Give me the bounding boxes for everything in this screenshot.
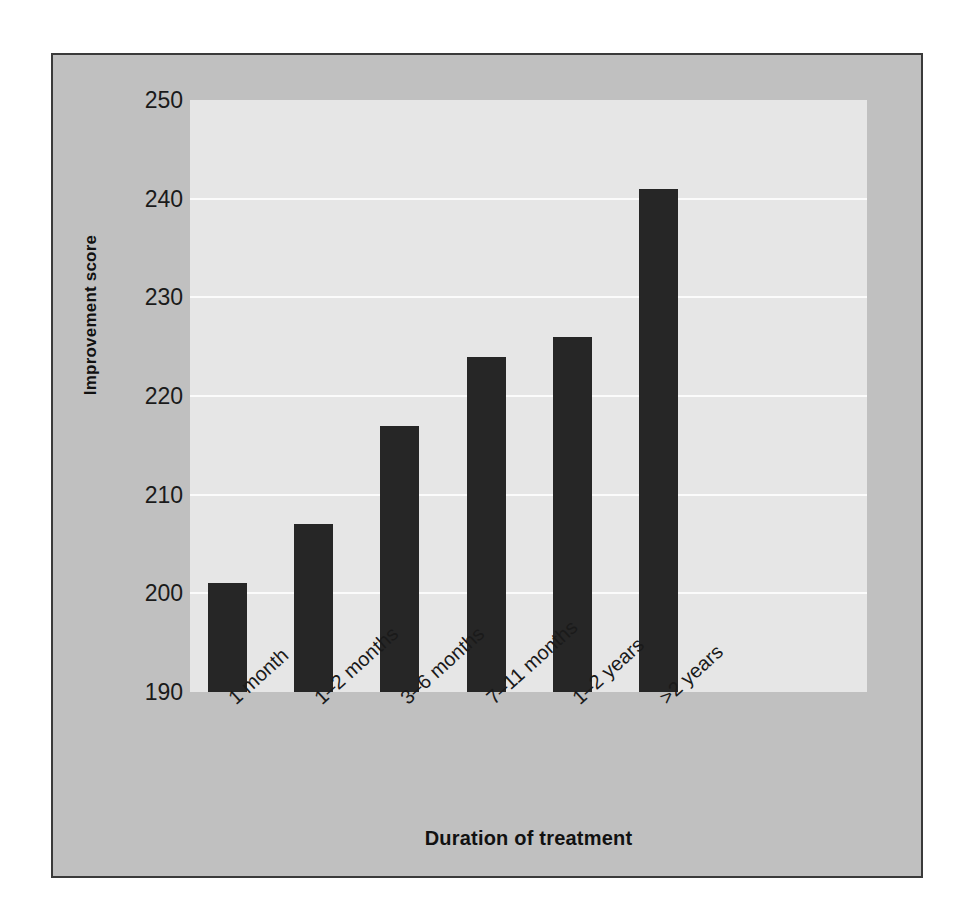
x-axis-title: Duration of treatment	[190, 827, 867, 850]
bar-series	[190, 100, 867, 692]
y-axis-title: Improvement score	[81, 215, 101, 415]
y-tick-label: 250	[123, 89, 183, 112]
y-tick-label: 210	[123, 483, 183, 506]
y-tick-label: 220	[123, 385, 183, 408]
x-axis-ticks: 1 month1–2 months3–6 months7–11 months1–…	[190, 692, 867, 822]
bar	[639, 189, 678, 692]
y-tick-label: 200	[123, 582, 183, 605]
y-tick-label: 240	[123, 187, 183, 210]
y-tick-label: 190	[123, 681, 183, 704]
y-tick-label: 230	[123, 286, 183, 309]
plot-area	[190, 100, 867, 692]
bar	[294, 524, 333, 692]
y-axis-ticks: 190200210220230240250	[113, 100, 183, 692]
chart-figure: 190200210220230240250 Improvement score …	[51, 53, 923, 878]
